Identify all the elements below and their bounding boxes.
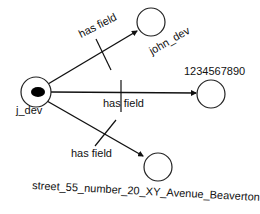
edge-label-lower: has field <box>71 147 112 159</box>
node-address-label: street_55_number_20_XY_Avenue_Beaverton <box>32 179 260 203</box>
node-address[interactable] <box>144 153 172 181</box>
source-node-dot-icon <box>31 87 45 97</box>
edge-to-john-dev[interactable] <box>48 31 137 84</box>
graph-diagram: has field has field has field j_dev john… <box>0 0 260 214</box>
edge-label-upper: has field <box>76 10 118 39</box>
node-john-dev[interactable] <box>137 8 165 36</box>
edge-tick-lower <box>95 120 116 146</box>
edge-label-middle: has field <box>103 97 144 109</box>
source-node-label: j_dev <box>15 104 43 116</box>
edge-to-phone[interactable] <box>51 92 196 93</box>
node-phone[interactable] <box>197 80 225 108</box>
node-phone-label: 1234567890 <box>184 65 245 77</box>
